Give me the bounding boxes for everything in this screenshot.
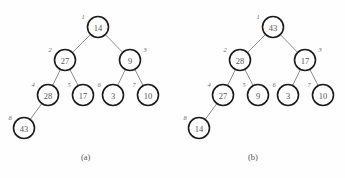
node-index-label: 3	[142, 46, 147, 53]
caption-panel-b: (b)	[248, 152, 258, 162]
node-index-label: 7	[307, 81, 311, 88]
node-value-label: 43	[269, 23, 278, 33]
tree-diagram-canvas: 1412729328417536107438431282173274953610…	[0, 0, 345, 178]
tree-node[interactable]: 148	[183, 114, 209, 139]
node-index-label: 1	[256, 13, 259, 20]
node-value-label: 10	[144, 91, 153, 101]
tree-node[interactable]: 272	[48, 46, 75, 71]
tree-node[interactable]: 95	[242, 81, 268, 106]
node-value-label: 43	[20, 124, 29, 134]
node-index-label: 7	[132, 81, 136, 88]
tree-panel-a: 1412729328417536107438	[8, 13, 158, 139]
tree-node[interactable]: 93	[120, 46, 148, 71]
node-value-label: 27	[219, 91, 228, 101]
node-value-label: 28	[236, 56, 245, 66]
node-index-label: 5	[242, 81, 246, 88]
tree-node[interactable]: 36	[272, 81, 298, 106]
node-value-label: 27	[61, 56, 70, 66]
tree-node[interactable]: 173	[295, 46, 323, 71]
node-value-label: 14	[195, 124, 204, 134]
node-index-label: 3	[317, 46, 322, 53]
tree-node[interactable]: 284	[31, 81, 58, 106]
tree-node[interactable]: 141	[81, 13, 108, 38]
node-value-label: 9	[256, 91, 260, 101]
node-value-label: 3	[111, 91, 115, 101]
tree-node[interactable]: 175	[67, 81, 93, 106]
node-index-label: 4	[207, 81, 211, 88]
node-value-label: 17	[79, 91, 88, 101]
node-index-label: 6	[272, 81, 276, 88]
node-index-label: 4	[31, 81, 35, 88]
tree-node[interactable]: 274	[207, 81, 233, 106]
tree-node[interactable]: 282	[223, 46, 250, 71]
caption-panel-a: (a)	[81, 152, 90, 162]
tree-node[interactable]: 36	[97, 81, 123, 106]
tree-node[interactable]: 107	[132, 81, 158, 106]
tree-panel-b: 4312821732749536107148	[183, 13, 333, 139]
node-index-label: 2	[48, 46, 52, 53]
binary-tree-figure: 1412729328417536107438431282173274953610…	[0, 0, 345, 178]
node-value-label: 9	[128, 56, 132, 66]
node-index-label: 2	[223, 46, 227, 53]
node-index-label: 8	[183, 114, 187, 121]
tree-node[interactable]: 431	[256, 13, 283, 38]
node-index-label: 5	[67, 81, 71, 88]
tree-node[interactable]: 438	[8, 114, 34, 139]
node-value-label: 17	[301, 56, 310, 66]
node-index-label: 8	[8, 114, 12, 121]
node-index-label: 1	[81, 13, 84, 20]
node-index-label: 6	[97, 81, 101, 88]
tree-node[interactable]: 107	[307, 81, 333, 106]
node-value-label: 10	[319, 91, 328, 101]
node-value-label: 28	[44, 91, 53, 101]
node-value-label: 3	[286, 91, 290, 101]
node-value-label: 14	[94, 23, 103, 33]
